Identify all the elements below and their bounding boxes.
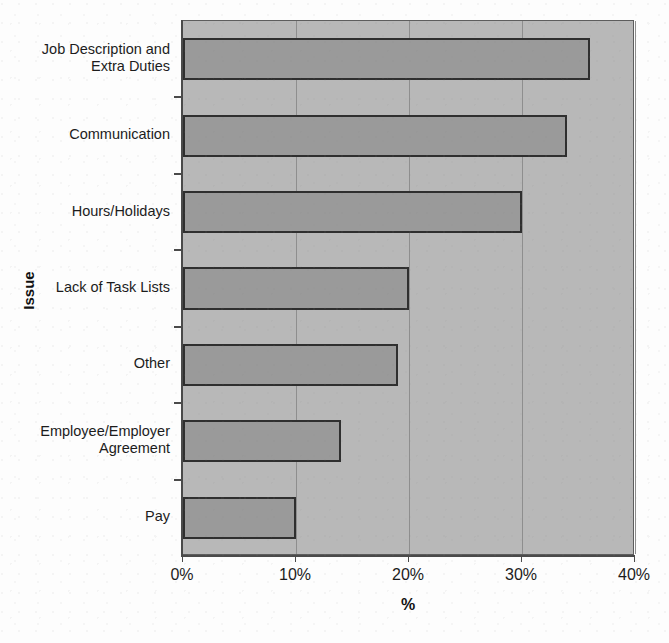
y-axis-line [181, 20, 183, 556]
category-label-line: Communication [10, 126, 170, 143]
x-tick-label: 20% [373, 566, 443, 584]
y-tick-mark [174, 173, 182, 175]
bar-row [183, 38, 633, 80]
y-tick-mark [174, 479, 182, 481]
category-label: Hours/Holidays [10, 203, 170, 220]
x-tick-label: 40% [599, 566, 669, 584]
category-label-line: Extra Duties [10, 58, 170, 75]
x-tick-label: 30% [486, 566, 556, 584]
category-label-line: Employee/Employer [10, 423, 170, 440]
bar-job-description-and-extra-duties [183, 38, 590, 80]
bar-row [183, 191, 633, 233]
x-tick-mark [408, 555, 409, 562]
category-label-line: Job Description and [10, 41, 170, 58]
plot-area [182, 20, 634, 555]
category-label: Job Description andExtra Duties [10, 41, 170, 75]
x-tick-mark [634, 555, 635, 562]
bar-employee-employer-agreement [183, 420, 341, 462]
bar-row [183, 497, 633, 539]
x-tick-mark [295, 555, 296, 562]
category-label: Employee/EmployerAgreement [10, 423, 170, 457]
category-label-line: Agreement [10, 440, 170, 457]
bar-row [183, 115, 633, 157]
y-axis-title: Issue [20, 241, 37, 341]
y-tick-mark [174, 402, 182, 404]
bar-hours-holidays [183, 191, 522, 233]
cut-off-title-text [200, 0, 580, 4]
bar-communication [183, 115, 567, 157]
bar-pay [183, 497, 296, 539]
category-label-line: Other [10, 355, 170, 372]
category-label-line: Hours/Holidays [10, 203, 170, 220]
bar-lack-of-task-lists [183, 267, 409, 309]
gridline-40 [635, 21, 636, 554]
y-tick-mark [174, 96, 182, 98]
category-label: Other [10, 355, 170, 372]
x-tick-label: 0% [147, 566, 217, 584]
x-tick-mark [182, 555, 183, 562]
x-tick-label: 10% [260, 566, 330, 584]
bar-row [183, 344, 633, 386]
category-label: Communication [10, 126, 170, 143]
bar-other [183, 344, 398, 386]
category-label: Pay [10, 508, 170, 525]
bar-row [183, 267, 633, 309]
x-tick-mark [521, 555, 522, 562]
category-label-line: Pay [10, 508, 170, 525]
bar-row [183, 420, 633, 462]
x-axis-title: % [182, 596, 634, 614]
y-tick-mark [174, 326, 182, 328]
chart-page: 0%10%20%30%40% Job Description andExtra … [0, 0, 669, 643]
y-tick-mark [174, 249, 182, 251]
